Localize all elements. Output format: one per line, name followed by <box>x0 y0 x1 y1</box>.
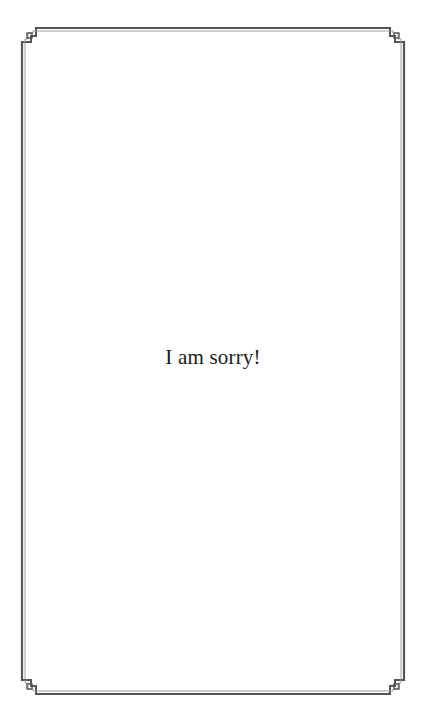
corner-ornament-bottom-right <box>390 680 404 694</box>
apology-message: I am sorry! <box>0 345 426 370</box>
corner-ornament-top-left <box>22 28 36 42</box>
corner-ornament-bottom-left <box>22 680 36 694</box>
page: I am sorry! <box>0 0 426 719</box>
corner-ornament-top-right <box>390 28 404 42</box>
